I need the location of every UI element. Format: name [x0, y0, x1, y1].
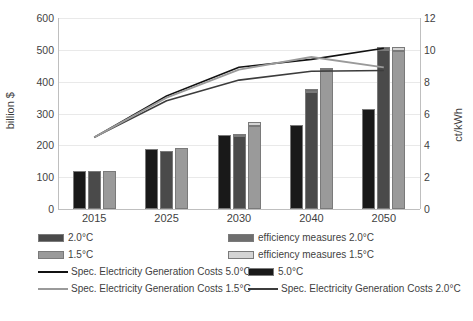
legend-item-label: efficiency measures 2.0°C — [258, 232, 374, 243]
x-axis-tick-label-2015: 2015 — [64, 212, 124, 224]
legend-line-icon — [248, 288, 278, 290]
chart-legend: 2.0°Cefficiency measures 2.0°C1.5°Ceffic… — [0, 232, 473, 300]
legend-item-label: 1.5°C — [68, 249, 93, 260]
y-axis-right-tick-label: 8 — [424, 77, 450, 87]
y-axis-left-tick-label: 100 — [6, 172, 54, 182]
legend-item-label: 5.0°C — [278, 266, 303, 277]
y-axis-left-line — [58, 18, 59, 209]
legend-item[interactable]: 2.0°C — [38, 232, 93, 243]
y-axis-left-title: billion $ — [4, 92, 16, 129]
legend-item[interactable]: Spec. Electricity Generation Costs 5.0°C — [38, 266, 251, 277]
x-axis-tick-label-2030: 2030 — [209, 212, 269, 224]
line-spec-costs-2c — [94, 71, 384, 138]
y-axis-right-tick-label: 6 — [424, 109, 450, 119]
x-axis-tick-label-2040: 2040 — [281, 212, 341, 224]
line-series-layer — [58, 18, 420, 209]
y-axis-right-tick-label: 2 — [424, 172, 450, 182]
y-axis-left-tick-label: 0 — [6, 204, 54, 214]
legend-item-label: Spec. Electricity Generation Costs 5.0°C — [71, 266, 251, 277]
legend-swatch-icon — [38, 234, 64, 242]
y-axis-right-line — [420, 18, 421, 209]
legend-item[interactable]: efficiency measures 1.5°C — [228, 249, 374, 260]
y-axis-left-tick-label: 400 — [6, 77, 54, 87]
legend-item-label: Spec. Electricity Generation Costs 2.0°C — [281, 283, 461, 294]
legend-item[interactable]: efficiency measures 2.0°C — [228, 232, 374, 243]
y-axis-right-tick-label: 10 — [424, 45, 450, 55]
legend-line-icon — [38, 288, 68, 290]
legend-swatch-icon — [228, 234, 254, 242]
legend-item[interactable]: 5.0°C — [248, 266, 303, 277]
x-axis-line — [58, 209, 420, 210]
y-axis-left-tick-label: 200 — [6, 140, 54, 150]
y-axis-left-tick-label: 500 — [6, 45, 54, 55]
legend-item-label: efficiency measures 1.5°C — [258, 249, 374, 260]
legend-item-label: Spec. Electricity Generation Costs 1.5°C — [71, 283, 251, 294]
x-axis-tick-label-2025: 2025 — [137, 212, 197, 224]
legend-swatch-icon — [248, 268, 274, 276]
legend-item[interactable]: Spec. Electricity Generation Costs 2.0°C — [248, 283, 461, 294]
legend-item[interactable]: 1.5°C — [38, 249, 93, 260]
legend-line-icon — [38, 271, 68, 273]
chart-container: 0100200300400500600 024681012 2015202520… — [0, 0, 473, 321]
line-spec-costs-1_5c — [94, 57, 384, 137]
legend-swatch-icon — [228, 251, 254, 259]
y-axis-right-tick-label: 0 — [424, 204, 450, 214]
y-axis-right-tick-label: 12 — [424, 13, 450, 23]
legend-item[interactable]: Spec. Electricity Generation Costs 1.5°C — [38, 283, 251, 294]
x-axis-tick-label-2050: 2050 — [354, 212, 414, 224]
legend-swatch-icon — [38, 251, 64, 259]
legend-item-label: 2.0°C — [68, 232, 93, 243]
y-axis-right-title: ct/kWh — [452, 108, 464, 142]
y-axis-right-tick-label: 4 — [424, 140, 450, 150]
y-axis-left-tick-label: 600 — [6, 13, 54, 23]
y-axis-right-ticks: 024681012 — [424, 0, 454, 209]
